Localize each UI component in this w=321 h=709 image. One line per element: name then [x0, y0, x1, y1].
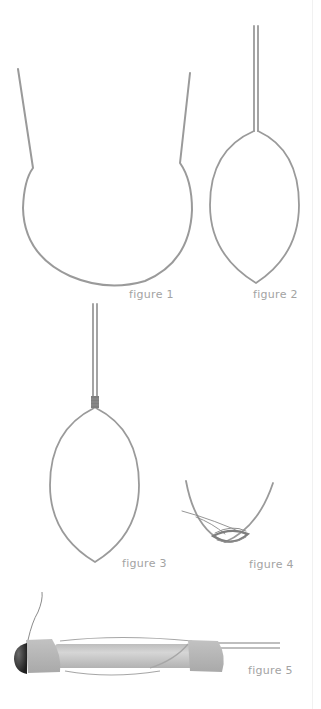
- figure-3-label: figure 3: [122, 557, 167, 570]
- figure-4-loop-tip: [182, 481, 273, 542]
- figure-5-tube: [55, 644, 200, 668]
- figure-5-left-band: [26, 639, 60, 673]
- figure-5-tip: [14, 643, 27, 674]
- diagram-canvas: [0, 0, 321, 709]
- figure-5-assembly: [14, 592, 280, 675]
- figure-1-label: figure 1: [129, 288, 174, 301]
- figure-3-loop: [50, 304, 139, 562]
- figure-5-label: figure 5: [248, 664, 293, 677]
- figure-2-label: figure 2: [253, 288, 298, 301]
- figure-2-loop: [210, 26, 299, 283]
- figure-4-label: figure 4: [249, 558, 294, 571]
- figure-1-loop: [18, 69, 192, 285]
- figure-5-right-band: [188, 640, 224, 672]
